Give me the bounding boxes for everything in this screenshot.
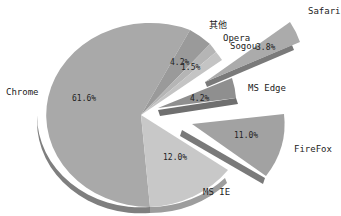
label-others: 其他	[209, 21, 227, 30]
percent-firefox: 11.0%	[234, 132, 258, 140]
label-chrome: Chrome	[6, 88, 39, 97]
label-sogou: Sogou	[230, 42, 257, 51]
label-msie: MS IE	[203, 188, 230, 197]
label-opera: Opera	[223, 34, 250, 43]
percent-safari: 3.8%	[256, 44, 275, 52]
label-safari: Safari	[308, 7, 341, 16]
label-firefox: FireFox	[294, 145, 332, 154]
percent-chrome: 61.6%	[72, 95, 96, 103]
label-msedge: MS Edge	[248, 84, 286, 93]
percent-msie: 12.0%	[163, 154, 187, 162]
percent-msedge: 4.2%	[190, 95, 209, 103]
percent-others: 4.2%	[170, 59, 189, 67]
